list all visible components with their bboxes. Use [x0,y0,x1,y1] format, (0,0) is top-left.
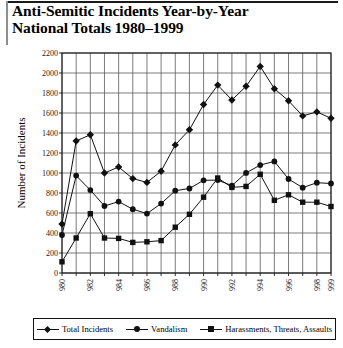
y-tick-label: 0 [54,269,58,278]
y-tick-label: 200 [46,249,58,258]
x-tick-label: 1992 [228,279,237,291]
data-point-circle [300,185,306,191]
data-point-square [173,225,178,230]
data-point-square [73,235,78,240]
y-tick-label: 1000 [42,169,58,178]
data-point-circle [257,162,263,168]
chart-figure: Anti-Semitic Incidents Year-by-Year Nati… [0,0,343,348]
axis-lines [59,53,331,276]
legend-item[interactable]: Harassments, Threats, Assaults [200,325,332,334]
legend-label: Total Incidents [62,325,113,334]
data-point-circle [243,170,249,176]
data-point-circle [144,211,150,217]
legend-label: Vandalism [151,325,187,334]
data-point-circle [102,203,108,209]
y-tick-label: 2200 [42,49,58,58]
y-tick-label: 2000 [42,69,58,78]
legend-item[interactable]: Vandalism [126,325,187,334]
x-tick-label: 1998 [313,279,322,291]
data-point-circle [73,173,79,179]
plot-area: 0200400600800100012001400160018002000220… [0,46,343,291]
data-point-square [272,198,277,203]
x-tick-label: 1982 [86,279,95,291]
y-tick-labels: 0200400600800100012001400160018002000220… [42,49,58,278]
y-tick-label: 1800 [42,89,58,98]
data-point-square [229,185,234,190]
data-point-square [215,175,220,180]
legend-label: Harassments, Threats, Assaults [225,325,332,334]
chart-legend: Total IncidentsVandalismHarassments, Thr… [33,318,336,340]
x-tick-label: 1996 [285,279,294,291]
data-point-circle [59,232,65,238]
data-point-circle [116,199,122,205]
data-point-circle [130,206,136,212]
data-point-square [286,192,291,197]
data-point-square [59,259,64,264]
data-point-square [314,200,319,205]
data-point-diamond [313,108,320,115]
data-point-circle [172,188,178,194]
data-point-square [144,239,149,244]
x-tick-label: 1999 [327,279,336,291]
data-point-circle [314,180,320,186]
chart-title-line-2: National Totals 1980–1999 [12,19,337,36]
chart-title-line-1: Anti-Semitic Incidents Year-by-Year [12,2,337,19]
legend-item[interactable]: Total Incidents [37,325,113,334]
data-point-circle [87,187,93,193]
data-point-square [328,204,333,209]
data-point-circle [286,176,292,182]
series-vandalism [59,159,334,238]
chart-title: Anti-Semitic Incidents Year-by-Year Nati… [12,2,337,37]
data-point-square [158,238,163,243]
data-point-circle [271,159,277,165]
y-tick-label: 1200 [42,149,58,158]
data-point-circle [187,186,193,192]
data-point-square [243,184,248,189]
legend-marker-square-icon [200,325,222,334]
y-tick-label: 1600 [42,109,58,118]
x-tick-label: 1988 [171,279,180,291]
data-point-square [201,195,206,200]
data-point-square [116,236,121,241]
data-point-diamond [200,101,207,108]
x-tick-label: 1986 [143,279,152,291]
data-point-diamond [87,131,94,138]
data-point-square [258,172,263,177]
data-point-diamond [257,63,264,70]
data-point-square [300,200,305,205]
x-tick-label: 1980 [58,279,67,291]
x-tick-label: 1990 [200,279,209,291]
data-point-circle [328,181,334,187]
data-point-square [102,235,107,240]
y-axis-label: Number of Incidents [15,117,27,208]
x-tick-labels: 1980198219841986198819901992199419961998… [58,279,336,291]
series-harassments-threats-assaults [59,172,333,265]
x-tick-label: 1984 [115,279,124,291]
data-point-diamond [327,115,334,122]
title-left-rule [6,1,8,45]
legend-marker-circle-icon [126,325,148,334]
data-point-diamond [72,137,79,144]
data-point-square [88,211,93,216]
series-line [62,174,331,261]
data-point-diamond [101,169,108,176]
data-point-square [187,212,192,217]
data-point-circle [158,201,164,207]
y-tick-label: 1400 [42,129,58,138]
series-total-incidents [58,63,334,228]
y-tick-label: 400 [46,229,58,238]
y-tick-label: 600 [46,209,58,218]
series-line [62,66,331,224]
data-point-circle [201,177,207,183]
data-point-square [130,240,135,245]
x-tick-label: 1994 [256,279,265,291]
line-chart-svg: 0200400600800100012001400160018002000220… [0,46,343,291]
y-tick-label: 800 [46,189,58,198]
legend-marker-diamond-icon [37,325,59,334]
